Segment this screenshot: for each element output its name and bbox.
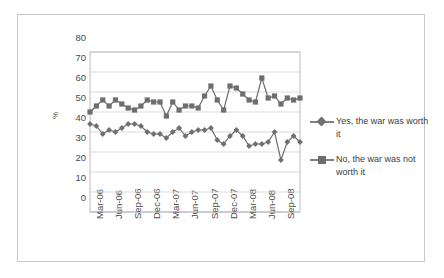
- square-marker-icon: [310, 154, 334, 166]
- data-point-marker: [119, 125, 125, 131]
- data-point-marker: [259, 141, 265, 147]
- data-point-marker: [164, 113, 169, 118]
- data-point-marker: [170, 99, 175, 104]
- data-point-marker: [106, 103, 111, 108]
- data-point-marker: [87, 109, 92, 114]
- data-point-marker: [87, 121, 93, 127]
- data-point-marker: [100, 97, 105, 102]
- legend-label-yes: Yes, the war was worth it: [334, 115, 432, 140]
- data-point-marker: [189, 103, 194, 108]
- data-point-marker: [272, 129, 278, 135]
- data-point-marker: [297, 95, 302, 100]
- data-point-marker: [138, 103, 143, 108]
- data-point-marker: [215, 97, 220, 102]
- data-point-marker: [246, 143, 252, 149]
- data-point-marker: [113, 97, 118, 102]
- chart-frame: % 80706050403020100 Mar-06Jun-06Sep-06De…: [17, 14, 425, 262]
- legend-item-no: No, the war was not worth it: [310, 153, 432, 178]
- data-point-marker: [176, 107, 181, 112]
- data-point-marker: [278, 157, 284, 163]
- data-point-marker: [214, 137, 220, 143]
- data-point-marker: [278, 101, 283, 106]
- data-point-marker: [208, 125, 214, 131]
- data-point-marker: [227, 83, 232, 88]
- data-point-marker: [285, 95, 290, 100]
- data-point-marker: [196, 105, 201, 110]
- data-point-marker: [265, 139, 271, 145]
- data-point-marker: [94, 103, 99, 108]
- data-point-marker: [202, 93, 207, 98]
- data-point-marker: [183, 103, 188, 108]
- chart-legend: Yes, the war was worth it No, the war wa…: [310, 115, 432, 191]
- data-point-marker: [234, 85, 239, 90]
- data-point-marker: [145, 97, 150, 102]
- data-point-marker: [272, 93, 277, 98]
- data-point-marker: [119, 101, 124, 106]
- diamond-marker-icon: [310, 116, 334, 128]
- data-point-marker: [253, 141, 259, 147]
- legend-item-yes: Yes, the war was worth it: [310, 115, 432, 140]
- data-point-marker: [151, 99, 156, 104]
- data-point-marker: [253, 99, 258, 104]
- legend-label-no: No, the war was not worth it: [334, 153, 432, 178]
- data-point-marker: [113, 129, 119, 135]
- data-point-marker: [246, 97, 251, 102]
- data-point-marker: [259, 75, 264, 80]
- data-point-marker: [208, 83, 213, 88]
- data-point-marker: [132, 107, 137, 112]
- data-point-marker: [132, 121, 138, 127]
- data-point-marker: [157, 99, 162, 104]
- data-point-marker: [125, 121, 131, 127]
- data-point-marker: [221, 107, 226, 112]
- data-point-marker: [189, 129, 195, 135]
- data-point-marker: [266, 95, 271, 100]
- data-point-marker: [291, 97, 296, 102]
- data-point-marker: [240, 91, 245, 96]
- data-point-marker: [126, 105, 131, 110]
